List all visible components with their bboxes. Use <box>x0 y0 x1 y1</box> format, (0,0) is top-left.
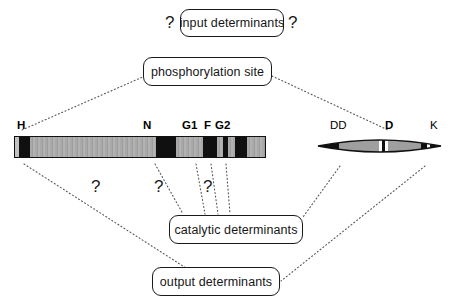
node-output-determinants[interactable]: output determinants <box>152 267 280 296</box>
node-catalytic-determinants-label: catalytic determinants <box>174 223 297 237</box>
question-mark-bar-n: ? <box>154 178 163 195</box>
connector-g2-to-catalytic <box>226 164 230 214</box>
lens-label-k: K <box>430 120 438 132</box>
question-mark-input-right: ? <box>288 14 297 31</box>
question-mark-input-left: ? <box>165 14 174 31</box>
lens-gap-k <box>427 133 430 159</box>
lens-k-motif <box>421 133 427 159</box>
node-catalytic-determinants[interactable]: catalytic determinants <box>169 215 303 244</box>
diagram-canvas: input determinants phosphorylation site … <box>0 0 459 306</box>
bar-label-h: H <box>17 120 25 132</box>
lens-dd-motif <box>332 133 339 159</box>
lens-gap-right <box>385 133 388 159</box>
bar-label-n: N <box>143 120 151 132</box>
bar-segment-g2-box-motif <box>235 137 247 157</box>
bar-segment-linker-2 <box>176 137 203 157</box>
lens-gap-left <box>379 133 382 159</box>
lens-body-left <box>339 133 379 159</box>
lens-body-right <box>388 133 421 159</box>
bar-label-g2: G2 <box>215 120 230 132</box>
bar-segment-linker-4 <box>228 137 235 157</box>
bar-segment-n-box-motif <box>156 137 176 157</box>
bar-segment-c-terminal-gray <box>247 137 266 157</box>
bar-segment-linker-1 <box>30 137 156 157</box>
bar-segment-g1-box-motif <box>203 137 217 157</box>
connector-dd-to-catalytic <box>303 166 340 217</box>
histidine-kinase-domain-bar <box>14 136 266 158</box>
node-input-determinants[interactable]: input determinants <box>180 9 284 37</box>
node-output-determinants-label: output determinants <box>160 275 272 289</box>
connector-phospho-to-h <box>22 76 145 130</box>
lens-label-d: D <box>385 120 393 132</box>
question-mark-bar-h: ? <box>91 178 100 195</box>
response-regulator-domain-lens <box>317 133 442 159</box>
lens-label-dd: DD <box>330 120 347 132</box>
lens-d-motif <box>382 133 385 159</box>
node-phosphorylation-site[interactable]: phosphorylation site <box>143 57 272 86</box>
bar-label-g1: G1 <box>182 120 197 132</box>
bar-label-f: F <box>204 120 211 132</box>
node-input-determinants-label: input determinants <box>180 16 285 30</box>
node-phosphorylation-site-label: phosphorylation site <box>151 65 264 79</box>
question-mark-bar-g1: ? <box>203 178 212 195</box>
bar-segment-h-box-motif <box>19 137 30 157</box>
